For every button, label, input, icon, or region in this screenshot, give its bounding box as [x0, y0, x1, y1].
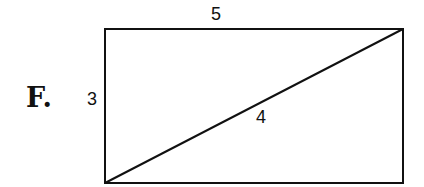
left-side-label: 3: [87, 89, 97, 110]
diagonal-label: 4: [256, 107, 266, 128]
top-side-label: 5: [211, 4, 221, 25]
diagonal-line: [105, 29, 403, 183]
rectangle-diagram: [0, 0, 424, 187]
